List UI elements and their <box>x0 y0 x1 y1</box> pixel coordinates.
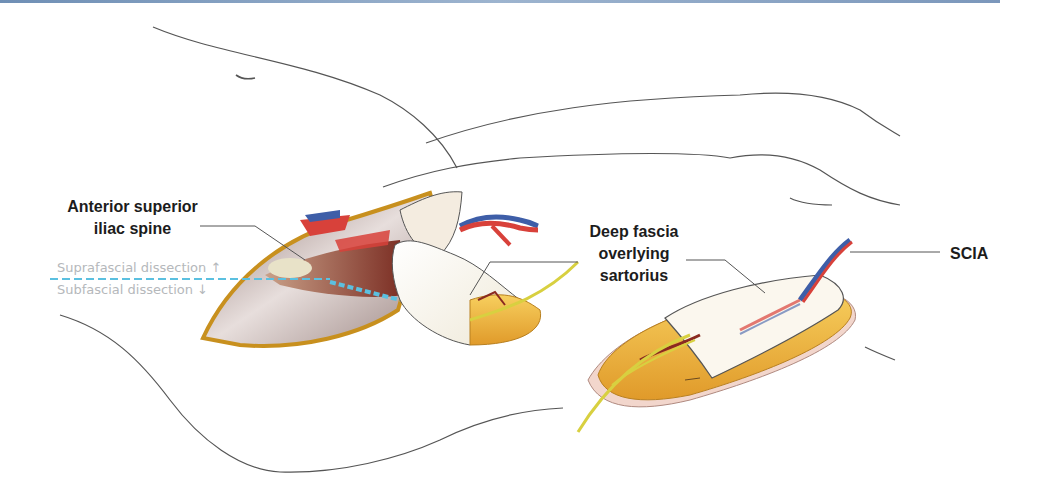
label-asis-line1: Anterior superior <box>50 196 215 218</box>
label-scia: SCIA <box>950 243 988 265</box>
anatomy-illustration <box>0 0 1037 492</box>
label-deep-fascia: Deep fascia overlying sartorius <box>583 221 685 287</box>
body-outline <box>60 27 900 472</box>
label-deep-line2: overlying <box>583 243 685 265</box>
label-subfascial-dissection: Subfascial dissection ↓ <box>57 282 208 297</box>
label-suprafascial-dissection: Suprafascial dissection ↑ <box>57 260 221 275</box>
label-deep-line1: Deep fascia <box>583 221 685 243</box>
label-asis-line2: iliac spine <box>50 218 215 240</box>
reflected-fascia-flap <box>392 192 578 345</box>
label-anterior-superior-iliac-spine: Anterior superior iliac spine <box>50 196 215 240</box>
label-deep-line3: sartorius <box>583 265 685 287</box>
